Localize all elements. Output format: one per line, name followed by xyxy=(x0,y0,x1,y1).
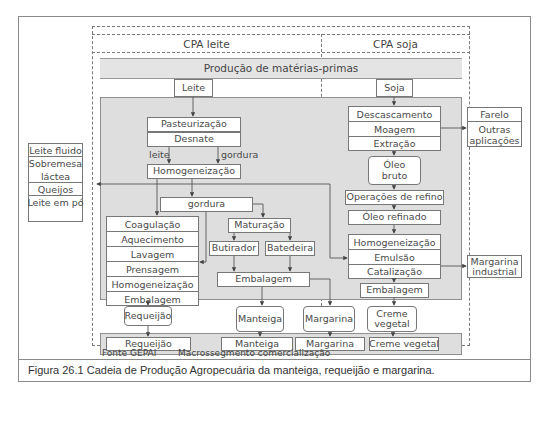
requeijao-step: Lavagem xyxy=(107,247,198,262)
margarine-step: Catalização xyxy=(349,265,440,278)
raw-materials-band: Produção de matérias-primas xyxy=(100,58,462,79)
source-label: Fonte GEPAI xyxy=(102,348,156,358)
input-leite: Leite xyxy=(174,79,213,97)
step-embalagem-manteiga: Embalagem xyxy=(217,272,310,287)
requeijao-step: Aquecimento xyxy=(107,232,198,247)
dairy-product: Leite fluido xyxy=(29,144,82,157)
step-desnate: Desnate xyxy=(147,132,241,147)
step-gordura: gordura xyxy=(160,197,253,212)
step-homogeneizacao: Homogeneização xyxy=(147,164,241,179)
step-embalagem-soja: Embalagem xyxy=(360,283,429,298)
margarine-step: Homogeneização xyxy=(349,235,440,250)
step-oleo-bruto: Óleo bruto xyxy=(368,156,421,185)
product-margarina: Margarina xyxy=(303,306,355,332)
column-header-leite: CPA leite xyxy=(92,35,321,53)
figure-caption: Figura 26.1 Cadeia de Produção Agropecuá… xyxy=(28,364,435,376)
requeijao-step: Coagulação xyxy=(107,217,198,232)
input-soja: Soja xyxy=(376,79,413,97)
dairy-product: Queijos xyxy=(29,183,82,196)
requeijao-step: Prensagem xyxy=(107,262,198,277)
step-pasteurizacao: Pasteurização xyxy=(147,117,241,132)
dairy-product: Sobremesa láctea xyxy=(29,157,82,183)
branch-label-gordura: gordura xyxy=(221,149,258,160)
margarine-step: Emulsão xyxy=(349,250,440,265)
step-butirador: Butirador xyxy=(209,241,259,256)
soy-byproducts: Farelo Outras aplicações xyxy=(467,107,522,147)
step-maturacao: Maturação xyxy=(228,218,291,233)
other-dairy-products: Leite fluido Sobremesa láctea Queijos Le… xyxy=(28,143,83,222)
soy-step: Extração xyxy=(349,137,440,150)
soy-byproduct: Farelo xyxy=(468,108,521,122)
dairy-product: Leite em pó xyxy=(29,196,82,209)
product-requeijao: Requeijão xyxy=(124,306,172,326)
requeijao-step: Homogeneização xyxy=(107,277,198,292)
step-operacoes-refino: Operações de refino xyxy=(345,190,444,205)
product-creme-vegetal: Creme vegetal xyxy=(367,306,417,332)
caption-divider xyxy=(18,359,531,360)
soy-extraction-steps: Descascamento Moagem Extração xyxy=(348,106,441,151)
step-oleo-refinado: Óleo refinado xyxy=(348,210,441,225)
branch-label-leite: leite xyxy=(149,149,170,160)
segment-label: Macrossegmento comercialização xyxy=(178,348,330,358)
requeijao-step: Embalagem xyxy=(107,292,198,306)
soy-step: Descascamento xyxy=(349,107,440,122)
step-batedeira: Batedeira xyxy=(265,241,315,256)
requeijao-process-steps: Coagulação Aquecimento Lavagem Prensagem… xyxy=(106,216,199,306)
product-manteiga: Manteiga xyxy=(236,306,284,332)
margarina-industrial: Margarina industrial xyxy=(467,255,522,278)
soy-byproduct: Outras aplicações xyxy=(468,122,521,147)
commercial-creme-vegetal: Creme vegetal xyxy=(369,337,439,351)
soy-step: Moagem xyxy=(349,122,440,137)
column-header-soja: CPA soja xyxy=(321,35,470,53)
margarine-process-steps: Homogeneização Emulsão Catalização xyxy=(348,234,441,279)
